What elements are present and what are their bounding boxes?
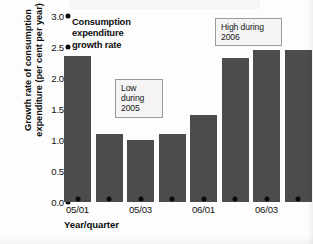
bar-3 [159,134,186,202]
x-tick-label-3: 06/03 [244,204,290,215]
y-tick-label-5: 2.5 [30,42,64,53]
bar-1 [96,134,123,202]
annotation-high-2006: High during 2006 [215,18,282,46]
x-tick-marker-3 [170,197,175,202]
x-tick-label-1: 05/03 [118,204,164,215]
bar-5 [222,58,249,203]
series-label-line-3: growth rate [72,39,164,50]
series-label: Consumption expenditure growth rate [72,16,164,50]
annotation-low-line-1: Low [121,83,158,93]
y-tick-label-1: 0.5 [30,166,64,177]
y-tick-label-3: 1.5 [30,104,64,115]
scan-artifact-bottom [0,237,313,244]
bar-0 [64,56,91,202]
bar-chart-figure: Growth rate of consumption expenditure (… [0,0,313,244]
bar-4 [190,115,217,202]
x-tick-marker-0 [75,197,80,202]
x-tick-label-2: 06/01 [181,204,227,215]
annotation-low-2005: Low during 2005 [115,79,163,118]
x-tick-label-0: 05/01 [55,204,101,215]
bar-2 [127,140,154,202]
x-tick-marker-2 [138,197,143,202]
annotation-high-line-2: 2006 [221,32,277,42]
series-label-line-1: Consumption [72,16,164,27]
x-tick-marker-6 [264,197,269,202]
annotation-low-line-2: during [121,93,158,103]
y-tick-label-2: 1.0 [30,135,64,146]
x-axis-title: Year/quarter [64,219,119,230]
annotation-low-line-3: 2005 [121,103,158,113]
scan-artifact-top [70,0,260,9]
annotation-high-line-1: High during [221,22,277,32]
x-tick-marker-4 [201,197,206,202]
x-tick-marker-7 [296,197,301,202]
scan-artifact-right [307,0,313,244]
y-tick-label-4: 2.0 [30,73,64,84]
series-label-line-2: expenditure [72,27,164,38]
x-tick-marker-5 [233,197,238,202]
y-tick-label-6: 3.0 [30,11,64,22]
x-tick-marker-1 [107,197,112,202]
bar-6 [253,50,280,202]
